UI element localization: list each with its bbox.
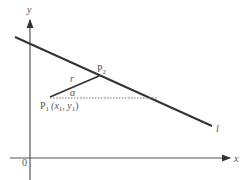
y-axis-label: y — [26, 4, 32, 15]
point-p1-label: P1(x1, y1) — [40, 100, 79, 113]
line-l — [15, 37, 212, 126]
diagram-canvas: y x 0 l P2 r α P1(x1, y1) — [0, 0, 248, 180]
line-distance-diagram: y x 0 l P2 r α P1(x1, y1) — [0, 0, 248, 180]
x-axis-label: x — [233, 153, 239, 164]
line-l-label: l — [216, 123, 219, 134]
angle-alpha-label: α — [70, 87, 76, 98]
segment-r-label: r — [70, 73, 74, 84]
origin-label: 0 — [22, 157, 27, 168]
